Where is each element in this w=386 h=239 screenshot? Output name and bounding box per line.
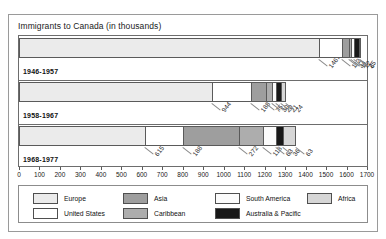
- bar-segment[interactable]: [19, 126, 145, 146]
- axis-tick: [347, 167, 348, 170]
- legend-swatch: [33, 208, 58, 219]
- leader-line: [238, 147, 247, 155]
- legend-swatch: [123, 208, 148, 219]
- axis-tick-label: 500: [116, 171, 127, 178]
- bar-row: 94418875302021241958-1967: [19, 80, 367, 124]
- axis-tick: [367, 167, 368, 170]
- legend-label: Australia & Pacific: [246, 210, 301, 217]
- bar-segment[interactable]: [342, 38, 349, 58]
- leader-line: [144, 147, 153, 155]
- axis-tick: [306, 167, 307, 170]
- bar-segment[interactable]: [212, 82, 250, 102]
- axis-tick-label: 100: [34, 171, 45, 178]
- stacked-bar[interactable]: [19, 82, 286, 102]
- legend-label: Asia: [154, 195, 167, 202]
- bar-row: 6151882721186336631968-1977: [19, 124, 367, 168]
- legend-item[interactable]: Australia & Pacific: [215, 208, 301, 219]
- axis-tick-label: 0: [17, 171, 21, 178]
- axis-tick: [142, 167, 143, 170]
- bar-segment[interactable]: [283, 126, 296, 146]
- axis-tick: [183, 167, 184, 170]
- axis-tick: [60, 167, 61, 170]
- x-axis: 0100200300400500600700800900100011001200…: [18, 167, 368, 183]
- leader-line: [212, 103, 221, 111]
- legend-item[interactable]: Asia: [123, 193, 167, 204]
- stacked-bar[interactable]: [19, 38, 361, 58]
- bar-segment[interactable]: [19, 38, 319, 58]
- bar-segment[interactable]: [276, 126, 283, 146]
- legend-item[interactable]: Africa: [307, 193, 355, 204]
- legend-swatch: [215, 193, 240, 204]
- axis-tick-label: 1100: [237, 171, 251, 178]
- axis-tick-label: 200: [55, 171, 66, 178]
- axis-tick-label: 1400: [298, 171, 312, 178]
- bar-segment[interactable]: [19, 82, 212, 102]
- axis-tick: [224, 167, 225, 170]
- segment-value-text: 272: [247, 144, 259, 157]
- axis-tick: [162, 167, 163, 170]
- category-label: 1946-1957: [23, 68, 58, 75]
- axis-tick: [121, 167, 122, 170]
- axis-tick: [244, 167, 245, 170]
- bar-segment[interactable]: [263, 126, 276, 146]
- legend-label: Europe: [64, 195, 86, 202]
- axis-tick: [101, 167, 102, 170]
- chart-figure: Immigrants to Canada (in thousands) 1467…: [8, 14, 378, 232]
- axis-tick: [80, 167, 81, 170]
- stacked-bars-container: 14671123411122561946-1957944188753020212…: [19, 36, 367, 166]
- category-label: 1958-1967: [23, 112, 58, 119]
- bar-segment[interactable]: [251, 82, 266, 102]
- bar-segment[interactable]: [239, 126, 263, 146]
- axis-tick-label: 800: [177, 171, 188, 178]
- legend-swatch: [33, 193, 58, 204]
- axis-tick-label: 400: [95, 171, 106, 178]
- segment-value-text: 188: [191, 144, 203, 157]
- axis-tick-label: 900: [198, 171, 209, 178]
- legend-label: South America: [246, 195, 290, 202]
- axis-tick-label: 1000: [216, 171, 230, 178]
- bar-segment[interactable]: [145, 126, 183, 146]
- legend-item[interactable]: Caribbean: [123, 208, 185, 219]
- legend-swatch: [123, 193, 148, 204]
- legend-item[interactable]: South America: [215, 193, 290, 204]
- legend-label: United States: [64, 210, 105, 217]
- segment-value-text: 63: [304, 147, 314, 157]
- axis-tick-label: 1700: [360, 171, 374, 178]
- chart-legend: EuropeAsiaSouth AmericaAfricaUnited Stat…: [18, 185, 368, 223]
- legend-item[interactable]: Europe: [33, 193, 86, 204]
- legend-label: Africa: [338, 195, 355, 202]
- segment-value-text: 944: [220, 100, 232, 113]
- leader-line: [263, 147, 272, 155]
- axis-tick: [265, 167, 266, 170]
- leader-line: [250, 103, 259, 111]
- axis-tick: [285, 167, 286, 170]
- legend-item[interactable]: United States: [33, 208, 105, 219]
- bar-segment[interactable]: [183, 126, 239, 146]
- stacked-bar[interactable]: [19, 126, 296, 146]
- axis-tick: [326, 167, 327, 170]
- axis-tick-label: 300: [75, 171, 86, 178]
- bar-segment[interactable]: [281, 82, 286, 102]
- axis-tick-label: 1600: [339, 171, 353, 178]
- segment-value-text: 615: [153, 144, 165, 157]
- axis-tick-label: 1300: [278, 171, 292, 178]
- category-label: 1968-1977: [23, 156, 58, 163]
- axis-tick: [39, 167, 40, 170]
- plot-area: 14671123411122561946-1957944188753020212…: [18, 35, 368, 167]
- page-title: Immigrants to Canada (in thousands): [18, 21, 161, 31]
- axis-tick-label: 600: [136, 171, 147, 178]
- legend-label: Caribbean: [154, 210, 185, 217]
- legend-swatch: [215, 208, 240, 219]
- axis-tick-label: 700: [157, 171, 168, 178]
- legend-swatch: [307, 193, 332, 204]
- bar-segment[interactable]: [359, 38, 361, 58]
- axis-tick-label: 1500: [319, 171, 333, 178]
- bar-row: 14671123411122561946-1957: [19, 36, 367, 80]
- axis-tick: [19, 167, 20, 170]
- bar-segment[interactable]: [319, 38, 342, 58]
- axis-tick-label: 1200: [257, 171, 271, 178]
- axis-tick: [203, 167, 204, 170]
